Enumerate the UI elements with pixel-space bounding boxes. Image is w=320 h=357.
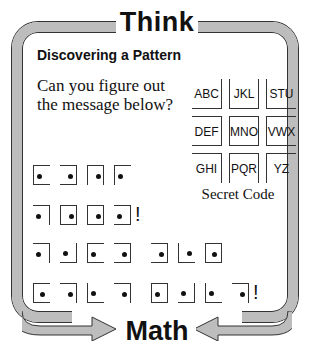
code-symbol xyxy=(114,243,131,263)
code-symbol xyxy=(33,165,50,185)
code-cell-yz: YZ xyxy=(266,153,296,183)
code-cell-ghi: GHI xyxy=(192,153,222,183)
dot-icon xyxy=(96,214,101,219)
dot-icon xyxy=(212,252,217,257)
dot-icon xyxy=(209,291,214,296)
dot-icon xyxy=(68,174,73,179)
dot-icon xyxy=(187,251,192,256)
dot-icon xyxy=(40,292,45,297)
code-symbol xyxy=(60,205,77,225)
secret-code-caption: Secret Code xyxy=(182,186,294,203)
code-cell-mno: MNO xyxy=(229,116,259,146)
code-cell-jkl: JKL xyxy=(229,79,259,109)
code-symbol xyxy=(33,283,50,303)
code-symbol xyxy=(232,283,249,303)
code-symbol xyxy=(33,243,50,263)
right-arrow-icon xyxy=(22,311,122,341)
dot-icon xyxy=(96,174,101,179)
question-text: Can you figure out the message below? xyxy=(37,76,177,114)
left-arrow-icon xyxy=(188,311,292,341)
dot-icon xyxy=(122,252,127,257)
code-symbol xyxy=(178,243,195,263)
title-think: Think xyxy=(116,4,198,40)
code-cell-def: DEF xyxy=(192,116,222,146)
code-symbol xyxy=(151,283,168,303)
code-symbol xyxy=(114,283,131,303)
code-symbol xyxy=(114,205,131,225)
dot-icon xyxy=(91,252,96,257)
dot-icon xyxy=(118,174,123,179)
code-symbol xyxy=(87,205,104,225)
code-cell-vwx: VWX xyxy=(266,116,296,146)
dot-icon xyxy=(63,251,68,256)
dot-icon xyxy=(122,292,127,297)
exclamation-mark: ! xyxy=(135,203,141,225)
dot-icon xyxy=(68,292,73,297)
code-symbol xyxy=(87,165,104,185)
dot-icon xyxy=(36,214,41,219)
code-symbol xyxy=(178,283,195,303)
code-cell-abc: ABC xyxy=(192,79,222,109)
code-symbol xyxy=(60,283,77,303)
code-symbol xyxy=(87,283,104,303)
code-symbol xyxy=(114,165,131,185)
code-symbol xyxy=(87,243,104,263)
dot-icon xyxy=(36,252,41,257)
code-symbol xyxy=(151,243,168,263)
code-symbol xyxy=(60,243,77,263)
secret-code-grid: ABCJKLSTUDEFMNOVWXGHIPQRYZ xyxy=(192,79,292,183)
code-symbol xyxy=(205,283,222,303)
dot-icon xyxy=(155,292,160,297)
code-symbol xyxy=(33,205,50,225)
dot-icon xyxy=(91,291,96,296)
code-symbol xyxy=(205,243,222,263)
dot-icon xyxy=(159,252,164,257)
title-math: Math xyxy=(118,313,196,349)
section-subtitle: Discovering a Pattern xyxy=(37,47,181,63)
dot-icon xyxy=(69,214,74,219)
exclamation-mark: ! xyxy=(253,281,259,303)
code-symbol xyxy=(60,165,77,185)
dot-icon xyxy=(37,174,42,179)
code-cell-stu: STU xyxy=(266,79,296,109)
dot-icon xyxy=(181,291,186,296)
dot-icon xyxy=(117,214,122,219)
code-cell-pqr: PQR xyxy=(229,153,259,183)
dot-icon xyxy=(240,292,245,297)
